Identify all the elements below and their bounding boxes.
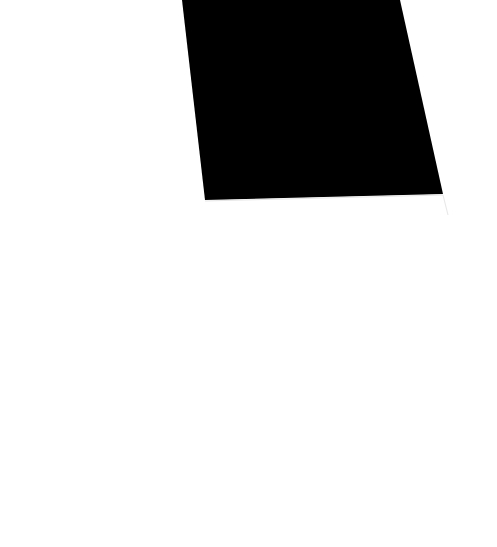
scene-canvas — [0, 0, 497, 547]
black-panel — [182, 0, 443, 200]
photo-scene — [0, 0, 497, 547]
